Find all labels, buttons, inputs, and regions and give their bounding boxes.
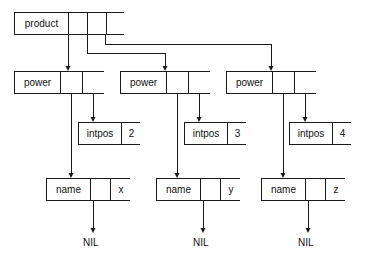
node-label-intpos2: intpos bbox=[185, 123, 228, 144]
node-product[interactable]: product bbox=[14, 12, 124, 35]
node-label-intpos1: intpos bbox=[79, 123, 122, 144]
node-pointer-cell-name2-1[interactable] bbox=[201, 179, 221, 200]
node-intpos1[interactable]: intpos2 bbox=[78, 122, 140, 145]
node-intpos3[interactable]: intpos4 bbox=[289, 122, 351, 145]
node-pointer-cell-product-1[interactable] bbox=[69, 13, 88, 34]
node-power3[interactable]: power bbox=[226, 71, 316, 94]
node-pointer-cell-product-2[interactable] bbox=[88, 13, 107, 34]
node-label-power3: power bbox=[227, 72, 273, 93]
node-name1[interactable]: namex bbox=[46, 178, 130, 201]
node-power2[interactable]: power bbox=[120, 71, 210, 94]
node-label-power1: power bbox=[15, 72, 61, 93]
node-pointer-cell-power3-2[interactable] bbox=[295, 72, 317, 93]
terminal-nil3: NIL bbox=[298, 238, 314, 248]
node-power1[interactable]: power bbox=[14, 71, 104, 94]
node-value-name2: y bbox=[221, 179, 241, 200]
edge-product-to-power2 bbox=[87, 35, 165, 69]
node-pointer-cell-name3-1[interactable] bbox=[306, 179, 326, 200]
node-pointer-cell-product-3[interactable] bbox=[107, 13, 125, 34]
node-pointer-cell-power3-1[interactable] bbox=[273, 72, 295, 93]
node-label-product: product bbox=[15, 13, 69, 34]
node-value-intpos1: 2 bbox=[122, 123, 141, 144]
node-pointer-cell-power1-1[interactable] bbox=[61, 72, 83, 93]
node-label-intpos3: intpos bbox=[290, 123, 333, 144]
node-value-name3: z bbox=[326, 179, 346, 200]
node-intpos2[interactable]: intpos3 bbox=[184, 122, 246, 145]
node-label-name1: name bbox=[47, 179, 91, 200]
node-name2[interactable]: namey bbox=[156, 178, 240, 201]
node-pointer-cell-power2-1[interactable] bbox=[167, 72, 189, 93]
node-label-name2: name bbox=[157, 179, 201, 200]
node-pointer-cell-name1-1[interactable] bbox=[91, 179, 111, 200]
node-pointer-cell-power1-2[interactable] bbox=[83, 72, 105, 93]
edge-product-to-power3 bbox=[105, 35, 271, 69]
node-name3[interactable]: namez bbox=[261, 178, 345, 201]
node-value-name1: x bbox=[111, 179, 131, 200]
diagram-canvas: productpowerpowerpowerintpos2intpos3intp… bbox=[0, 0, 366, 262]
node-label-power2: power bbox=[121, 72, 167, 93]
node-value-intpos3: 4 bbox=[333, 123, 352, 144]
node-pointer-cell-power2-2[interactable] bbox=[189, 72, 211, 93]
node-label-name3: name bbox=[262, 179, 306, 200]
node-value-intpos2: 3 bbox=[228, 123, 247, 144]
terminal-nil1: NIL bbox=[83, 238, 99, 248]
terminal-nil2: NIL bbox=[193, 238, 209, 248]
